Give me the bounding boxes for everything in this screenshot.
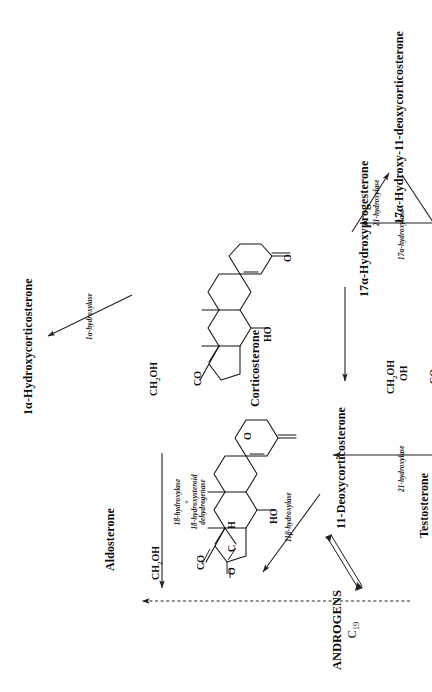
class-carbon-count-androgens: C19: [345, 590, 361, 670]
compound-label-17a-hydroxyprogesterone: 17α-Hydroxyprogesterone: [357, 161, 372, 297]
atom-corticosterone-ho: HO: [262, 326, 273, 342]
enzyme-label-1a-hydroxylase: 1α-hydroxylase: [86, 293, 94, 340]
atom-cortisol-17-oh: OH: [398, 365, 409, 381]
compound-label-testosterone: Testosterone: [417, 473, 432, 538]
atom-cortisol-ch2oh: CH2OH: [385, 360, 399, 394]
compound-label-11-deoxycorticosterone: 11-Deoxycorticosterone: [334, 407, 349, 529]
enzyme-label-21-hydroxylase-branch: 21-hydroxylase: [373, 179, 381, 226]
enzyme-label-21-hydroxylase-top: 21-hydroxylase: [398, 445, 406, 492]
compound-label-1a-hydroxycorticosterone: 1α-Hydroxycorticosterone: [21, 278, 36, 415]
compound-label-aldosterone: Aldosterone: [103, 508, 118, 571]
class-label-androgens: ANDROGENS: [330, 590, 345, 670]
arrow-androgens-to-testosterone: [325, 534, 363, 591]
class-group-androgens: ANDROGENS C19: [330, 590, 361, 670]
compound-label-17a-hydroxy-11-deoxycorticosterone: 17α-Hydroxy-11-deoxycorticosterone: [392, 31, 407, 224]
atom-corticosterone-ketone-o: O: [282, 254, 293, 262]
structure-corticosterone: [160, 244, 302, 444]
aldosterone-bond-annotations: [160, 419, 310, 634]
atom-corticosterone-co: CO: [192, 371, 203, 386]
structure-cortisol: [396, 239, 432, 444]
pathway-diagram: 21-hydroxylase 11β-hydroxylase 18-hydrox…: [0, 0, 432, 692]
atom-cortisol-co: CO: [428, 369, 432, 384]
atom-corticosterone-ch2oh: CH2OH: [148, 362, 162, 396]
